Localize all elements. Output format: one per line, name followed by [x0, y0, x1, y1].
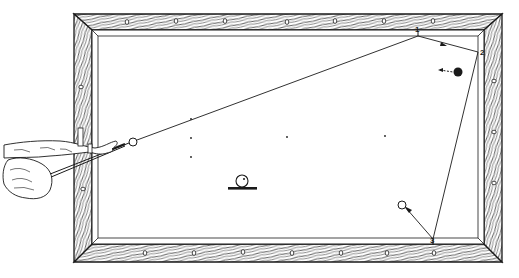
- pool-table: [74, 14, 502, 262]
- rail-post: [78, 128, 83, 146]
- right-rail: [484, 14, 502, 262]
- cushion-label-1: 1: [415, 25, 420, 34]
- cue-ball: [129, 138, 137, 146]
- bottom-rail: [74, 244, 502, 262]
- cushion-label-3: 3: [430, 236, 435, 245]
- billiards-diagram: 1 2 3: [0, 0, 519, 278]
- cushion-label-2: 2: [480, 48, 485, 57]
- object-ball-black: [454, 68, 463, 77]
- object-ball-white: [398, 201, 406, 209]
- playing-surface: [98, 36, 478, 238]
- english-dot-icon: [243, 178, 245, 180]
